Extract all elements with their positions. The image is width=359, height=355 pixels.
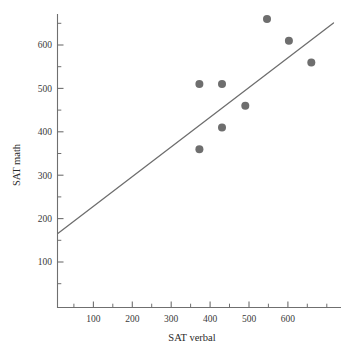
x-tick-label: 200 [125,314,140,324]
x-tick-label: 400 [203,314,218,324]
y-tick-label: 600 [38,40,53,50]
x-axis-tick-labels: 100 200 300 400 500 600 [86,314,295,324]
x-tick-label: 300 [164,314,179,324]
x-tick-label: 100 [86,314,101,324]
data-point [285,37,293,45]
scatter-plot-figure: 100 200 300 400 500 600 100 200 300 400 … [0,0,359,355]
y-tick-label: 200 [38,214,53,224]
y-tick-label: 300 [38,171,53,181]
axis-lines [58,14,342,308]
data-point [263,15,271,23]
y-tick-label: 100 [38,257,53,267]
data-point [218,80,226,88]
data-point [195,145,203,153]
x-tick-label: 500 [242,314,257,324]
y-axis-title: SAT math [11,143,22,186]
y-tick-label: 500 [38,84,53,94]
data-point [307,58,315,66]
x-axis-minor-ticks [74,304,327,308]
x-axis-title: SAT verbal [168,332,215,343]
data-point [241,102,249,110]
x-tick-label: 600 [281,314,296,324]
y-axis-tick-labels: 100 200 300 400 500 600 [38,40,53,267]
data-point [195,80,203,88]
regression-line [58,23,334,234]
plot-canvas: 100 200 300 400 500 600 100 200 300 400 … [0,0,359,355]
axes-group [58,14,342,308]
data-point [218,123,226,131]
data-points-group [195,15,315,153]
y-axis-minor-ticks [58,23,62,283]
y-tick-label: 400 [38,127,53,137]
